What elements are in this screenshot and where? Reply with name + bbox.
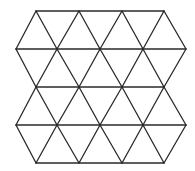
diagonal-line	[16, 125, 36, 163]
diagonal-line	[57, 11, 79, 49]
triangle-lattice-diagram	[0, 0, 195, 171]
diagonal-line	[164, 49, 186, 87]
diagonal-line	[79, 87, 100, 125]
lattice-lines	[16, 11, 186, 163]
diagonal-line	[164, 11, 186, 49]
diagonal-line	[143, 49, 164, 87]
diagonal-line	[143, 11, 164, 49]
diagonal-line	[100, 49, 122, 87]
diagonal-line	[143, 125, 164, 163]
diagonal-line	[100, 11, 122, 49]
diagonal-line	[164, 125, 186, 163]
diagonal-line	[57, 49, 79, 87]
diagonal-line	[79, 125, 100, 163]
diagonal-line	[122, 49, 143, 87]
diagonal-line	[143, 87, 164, 125]
diagonal-line	[36, 125, 57, 163]
diagonal-line	[122, 125, 143, 163]
diagonal-line	[36, 87, 57, 125]
diagonal-line	[122, 11, 143, 49]
diagonal-line	[100, 125, 122, 163]
diagonal-line	[79, 11, 100, 49]
diagonal-line	[164, 87, 186, 125]
diagonal-line	[57, 125, 79, 163]
diagonal-line	[16, 87, 36, 125]
diagonal-line	[36, 11, 57, 49]
diagonal-line	[57, 87, 79, 125]
diagonal-line	[79, 49, 100, 87]
diagonal-line	[36, 49, 57, 87]
diagonal-line	[100, 87, 122, 125]
diagonal-line	[16, 49, 36, 87]
diagonal-line	[16, 11, 36, 49]
diagonal-line	[122, 87, 143, 125]
